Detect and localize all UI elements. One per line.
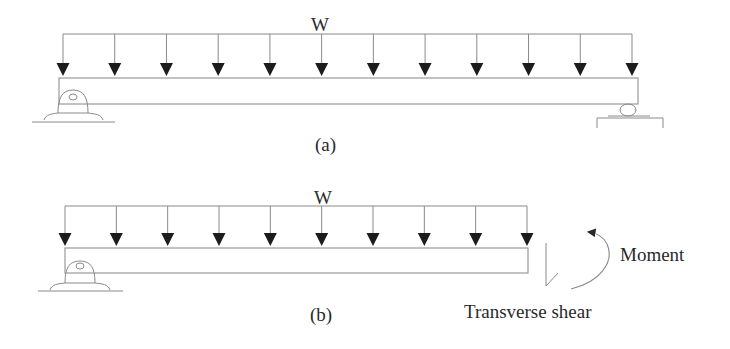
load-arrowhead-icon — [160, 63, 173, 76]
caption-a: (a) — [315, 134, 336, 156]
distributed-load-a — [57, 34, 639, 76]
load-arrowhead-icon — [263, 63, 276, 76]
load-arrowhead-icon — [59, 233, 72, 246]
load-arrowhead-icon — [57, 63, 70, 76]
beam-figure: W (a) W — [0, 0, 730, 349]
load-arrowhead-icon — [315, 63, 328, 76]
load-arrowhead-icon — [418, 233, 431, 246]
diagram-b: W Moment Transverse shear (b) — [38, 187, 685, 326]
load-label-b: W — [314, 187, 332, 208]
caption-b: (b) — [310, 304, 332, 326]
load-arrowhead-icon — [161, 233, 174, 246]
load-arrowhead-icon — [108, 63, 121, 76]
load-arrowhead-icon — [521, 233, 534, 246]
load-arrowhead-icon — [522, 63, 535, 76]
beam-b — [65, 248, 528, 273]
beam-a — [59, 78, 638, 104]
load-arrowhead-icon — [470, 63, 483, 76]
distributed-load-b — [59, 206, 534, 246]
load-arrowhead-icon — [469, 233, 482, 246]
diagram-a: W (a) — [32, 14, 663, 156]
load-arrowhead-icon — [212, 63, 225, 76]
load-arrows-a — [57, 34, 639, 76]
moment-arrow-icon — [571, 232, 609, 289]
load-arrowhead-icon — [315, 233, 328, 246]
load-arrowhead-icon — [367, 233, 380, 246]
load-arrowhead-icon — [419, 63, 432, 76]
load-arrows-b — [59, 206, 534, 246]
load-arrowhead-icon — [626, 63, 639, 76]
load-arrowhead-icon — [574, 63, 587, 76]
roller-support-icon — [597, 104, 663, 128]
load-label-a: W — [311, 14, 329, 35]
transverse-shear-label: Transverse shear — [464, 301, 592, 322]
load-arrowhead-icon — [264, 233, 277, 246]
shear-force-icon — [546, 243, 558, 286]
load-arrowhead-icon — [110, 233, 123, 246]
moment-label: Moment — [620, 244, 685, 265]
load-arrowhead-icon — [367, 63, 380, 76]
load-arrowhead-icon — [213, 233, 226, 246]
